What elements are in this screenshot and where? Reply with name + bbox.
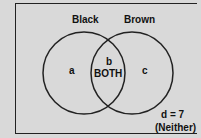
neither-label: (Neither) <box>155 123 196 133</box>
region-a-label: a <box>69 66 75 76</box>
region-c-label: c <box>142 66 148 76</box>
set-label-brown: Brown <box>124 15 155 25</box>
region-both-label: BOTH <box>94 69 122 79</box>
neither-value: d = 7 <box>161 110 184 120</box>
region-b-letter: b <box>106 57 112 67</box>
set-label-black: Black <box>72 15 99 25</box>
